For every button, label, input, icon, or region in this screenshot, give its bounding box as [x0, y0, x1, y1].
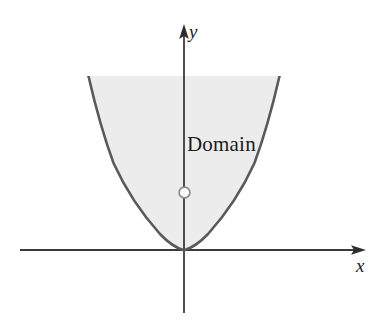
domain-region-label: Domain: [187, 134, 256, 155]
open-circle-icon: [179, 187, 190, 198]
y-axis-label: y: [189, 22, 197, 41]
open-point-marker: [179, 187, 190, 198]
figure-canvas: y x Domain: [0, 0, 390, 323]
x-axis-label: x: [356, 256, 364, 275]
parabola-domain-diagram: [0, 0, 390, 323]
